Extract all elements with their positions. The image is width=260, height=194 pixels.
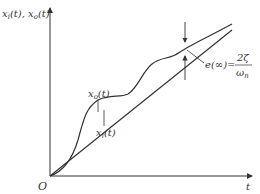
ramp-response-diagram: xi(t), xo(t) t O xo(t) xi(t) e(∞)= 2ζ ωn <box>0 0 260 194</box>
input-ramp-curve <box>50 30 232 176</box>
input-curve-label: xi(t) <box>96 127 116 140</box>
error-formula-lhs: e(∞)= <box>205 59 235 70</box>
x-axis-label: t <box>246 181 251 192</box>
y-axis-label: xi(t), xo(t) <box>2 8 50 21</box>
error-formula-denominator: ωn <box>236 67 249 80</box>
origin-label: O <box>38 180 47 193</box>
error-formula-numerator: 2ζ <box>236 52 249 63</box>
output-response-curve <box>50 24 232 176</box>
error-leader <box>187 50 204 63</box>
